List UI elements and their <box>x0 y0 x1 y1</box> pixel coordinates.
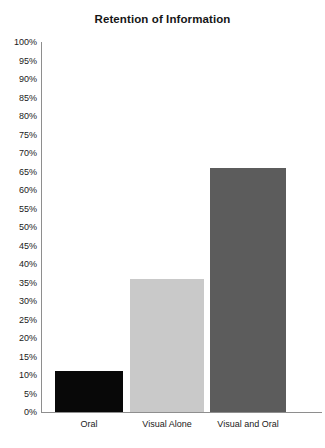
bar-visual-alone <box>130 279 204 412</box>
y-axis-tick-30pct: 30% <box>3 297 37 306</box>
y-axis-tick-95pct: 95% <box>3 56 37 65</box>
y-axis-tick-50pct: 50% <box>3 223 37 232</box>
x-axis-label-visual-alone: Visual Alone <box>130 419 204 430</box>
y-axis-tick-80pct: 80% <box>3 112 37 121</box>
y-axis-tick-55pct: 55% <box>3 204 37 213</box>
chart-title: Retention of Information <box>0 13 325 25</box>
y-axis-tick-45pct: 45% <box>3 241 37 250</box>
y-axis-tick-70pct: 70% <box>3 149 37 158</box>
y-axis-tick-0pct: 0% <box>3 408 37 417</box>
y-axis-tick-5pct: 5% <box>3 389 37 398</box>
x-axis-label-oral: Oral <box>55 419 123 430</box>
y-axis-tick-60pct: 60% <box>3 186 37 195</box>
x-axis-label-visual-and-oral: Visual and Oral <box>210 419 286 430</box>
y-axis-tick-65pct: 65% <box>3 167 37 176</box>
x-axis-line <box>41 412 322 413</box>
retention-bar-chart: Retention of Information 0%5%10%15%20%25… <box>0 0 325 448</box>
plot-area <box>41 42 322 412</box>
y-axis-tick-20pct: 20% <box>3 334 37 343</box>
y-axis-tick-10pct: 10% <box>3 371 37 380</box>
y-axis-tick-90pct: 90% <box>3 75 37 84</box>
y-axis-tick-15pct: 15% <box>3 352 37 361</box>
y-axis-tick-100pct: 100% <box>3 38 37 47</box>
y-axis-tick-25pct: 25% <box>3 315 37 324</box>
y-axis-tick-40pct: 40% <box>3 260 37 269</box>
y-axis-tick-35pct: 35% <box>3 278 37 287</box>
y-axis-tick-75pct: 75% <box>3 130 37 139</box>
bar-visual-and-oral <box>210 168 286 412</box>
bar-oral <box>55 371 123 412</box>
y-axis-tick-85pct: 85% <box>3 93 37 102</box>
y-axis-tick-labels: 0%5%10%15%20%25%30%35%40%45%50%55%60%65%… <box>0 0 37 448</box>
